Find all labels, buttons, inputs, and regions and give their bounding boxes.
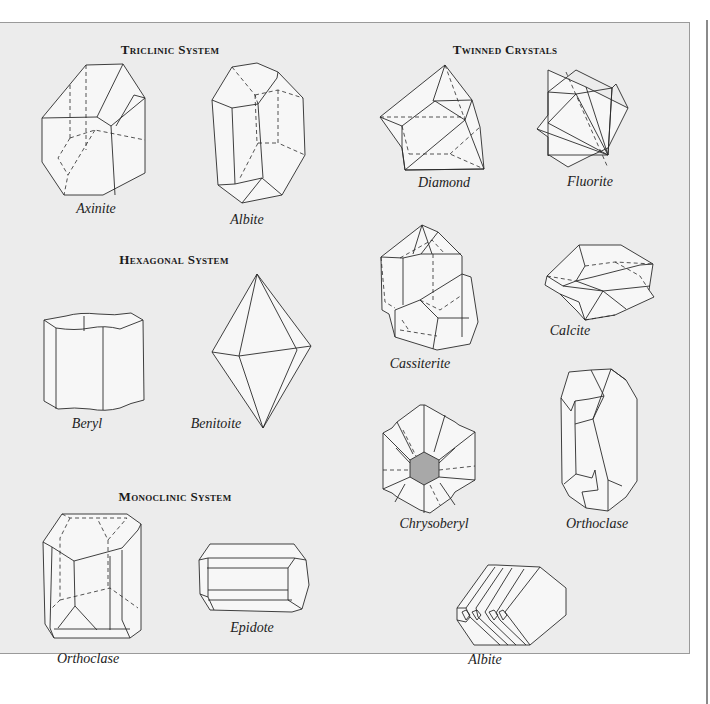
label-albite-twin: Albite	[468, 652, 501, 668]
crystal-albite-twin-drawing	[0, 0, 710, 704]
